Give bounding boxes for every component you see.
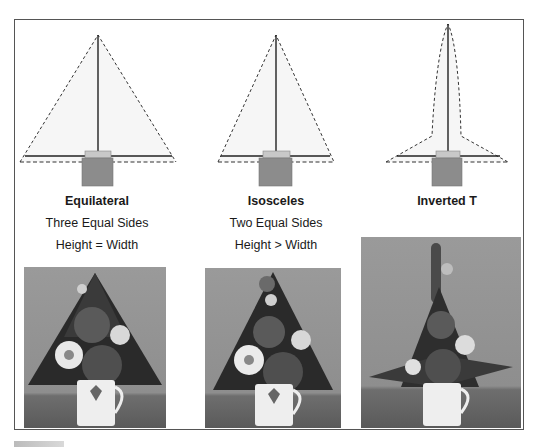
caption-line-1: Three Equal Sides xyxy=(7,212,187,234)
isosceles-diagram xyxy=(218,35,334,186)
inverted-t-arrangement-photo xyxy=(361,237,521,428)
vase-body-shape xyxy=(82,158,113,186)
caption-line-1: Two Equal Sides xyxy=(186,212,366,234)
caption-line-2: Height = Width xyxy=(7,234,187,256)
equilateral-caption: Equilateral Three Equal Sides Height = W… xyxy=(7,190,187,256)
caption-title: Inverted T xyxy=(357,190,537,212)
page-footer-bar xyxy=(14,441,64,447)
isosceles-arrangement-photo xyxy=(205,268,341,428)
inverted-t-caption: Inverted T xyxy=(357,190,537,212)
vase-lid-shape xyxy=(85,151,111,158)
caption-line-2: Height > Width xyxy=(186,234,366,256)
caption-title: Isosceles xyxy=(186,190,366,212)
inverted-t-diagram xyxy=(386,24,508,186)
isosceles-caption: Isosceles Two Equal Sides Height > Width xyxy=(186,190,366,256)
equilateral-diagram xyxy=(20,35,176,186)
caption-title: Equilateral xyxy=(7,190,187,212)
equilateral-arrangement-photo xyxy=(24,267,166,428)
